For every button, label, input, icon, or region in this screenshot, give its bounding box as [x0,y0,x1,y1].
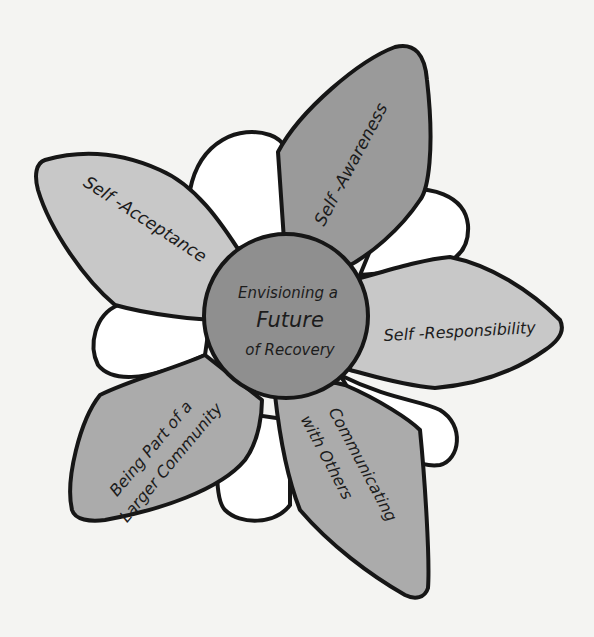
flower-diagram: Self -Awareness Self -Acceptance Self -R… [0,0,594,637]
center-title-line3: of Recovery [245,341,336,359]
center-title-line2: Future [256,308,324,332]
center-title-line1: Envisioning a [238,284,338,302]
